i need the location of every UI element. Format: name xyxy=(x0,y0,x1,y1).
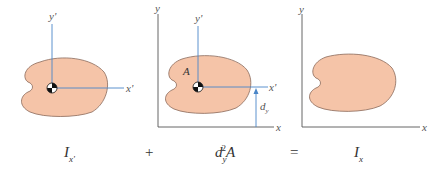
term-dy2a: dy2A xyxy=(215,145,235,160)
plus-operator: + xyxy=(145,145,153,160)
centroid-icon xyxy=(47,83,57,93)
term2-sup: 2 xyxy=(222,143,227,153)
term1-sub: x' xyxy=(69,154,75,164)
panel-centroidal xyxy=(22,24,125,117)
x-axis-label: x xyxy=(276,122,281,133)
y-prime-label: y' xyxy=(49,11,56,22)
term-ix-prime: Ix' xyxy=(64,145,75,160)
centroid-icon xyxy=(193,82,203,92)
x-axis-label: x xyxy=(422,122,427,133)
area-shape xyxy=(166,56,251,114)
term2-tail: A xyxy=(226,144,235,160)
area-label: A xyxy=(183,66,190,77)
x-prime-label: x' xyxy=(269,82,276,93)
term2-sub: y xyxy=(223,154,227,164)
y-axis-label: y xyxy=(299,4,304,15)
area-shape xyxy=(310,54,396,111)
term-ix: Ix xyxy=(354,145,363,160)
dy-sub: y xyxy=(266,107,269,115)
arrowhead-icon xyxy=(254,88,259,94)
equals-operator: = xyxy=(290,145,298,160)
term3-sub: x xyxy=(359,154,363,164)
distance-dy-label: dy xyxy=(260,101,269,112)
panel-parallel-axis xyxy=(158,14,274,127)
area-shape xyxy=(22,58,108,117)
panel-reference xyxy=(302,14,420,127)
dy-main: d xyxy=(260,100,266,112)
x-prime-label: x' xyxy=(126,83,133,94)
y-axis-label: y xyxy=(155,3,160,14)
y-prime-label: y' xyxy=(195,13,202,24)
